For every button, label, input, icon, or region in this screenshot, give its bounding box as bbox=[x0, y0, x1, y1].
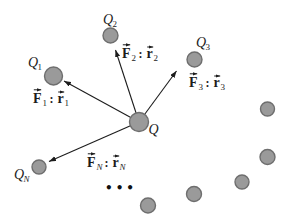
charge-unlabeled-circle bbox=[260, 150, 275, 165]
label-qn-subscript: N bbox=[23, 174, 31, 184]
separator-colon: : bbox=[50, 92, 54, 106]
position-r1-subscript: 1 bbox=[65, 98, 70, 108]
separator-colon: : bbox=[206, 76, 210, 90]
position-symbol-r3: r bbox=[214, 75, 220, 90]
position-r3-subscript: 3 bbox=[221, 82, 226, 92]
charge-q1-circle bbox=[45, 67, 63, 85]
charge-unlabeled-circle bbox=[235, 175, 249, 189]
label-q3-subscript: 3 bbox=[206, 42, 211, 52]
force-label-2: F 2 : r 2 bbox=[122, 45, 158, 63]
force-symbol-f2: F bbox=[122, 46, 131, 61]
label-q-central: Q bbox=[149, 122, 159, 137]
separator-colon: : bbox=[139, 47, 143, 61]
position-symbol-rn: r bbox=[113, 155, 119, 170]
charge-qn-circle bbox=[32, 160, 46, 174]
position-symbol-r1: r bbox=[58, 91, 64, 106]
ellipsis-dots: ••• bbox=[105, 181, 137, 195]
label-q2-subscript: 2 bbox=[113, 19, 118, 29]
separator-colon: : bbox=[105, 156, 109, 170]
force-f3-subscript: 3 bbox=[199, 82, 204, 92]
force-fn-subscript: N bbox=[96, 162, 104, 172]
charge-unlabeled-circle bbox=[141, 198, 156, 213]
diagram-canvas: Q 1 Q 2 Q 3 Q Q N F 1 : r 1 F 2 : r 2 bbox=[0, 0, 286, 224]
force-label-1: F 1 : r 1 bbox=[33, 90, 69, 108]
charge-unlabeled-circle bbox=[261, 102, 275, 116]
force-f1-subscript: 1 bbox=[43, 98, 48, 108]
force-symbol-f3: F bbox=[189, 75, 198, 90]
position-r2-subscript: 2 bbox=[154, 53, 159, 63]
force-symbol-fn: F bbox=[87, 155, 96, 170]
force-f2-subscript: 2 bbox=[132, 53, 137, 63]
position-rn-subscript: N bbox=[119, 162, 127, 172]
label-q1-subscript: 1 bbox=[38, 62, 43, 72]
force-label-n: F N : r N bbox=[87, 154, 127, 172]
charge-q3-circle bbox=[187, 52, 202, 67]
force-symbol-f1: F bbox=[33, 91, 42, 106]
physics-diagram: Q 1 Q 2 Q 3 Q Q N F 1 : r 1 F 2 : r 2 bbox=[0, 0, 286, 224]
position-symbol-r2: r bbox=[147, 46, 153, 61]
force-label-3: F 3 : r 3 bbox=[189, 74, 226, 92]
charge-unlabeled-circle bbox=[187, 187, 202, 202]
charge-q-central-circle bbox=[130, 113, 149, 132]
charge-q2-circle bbox=[103, 28, 118, 43]
